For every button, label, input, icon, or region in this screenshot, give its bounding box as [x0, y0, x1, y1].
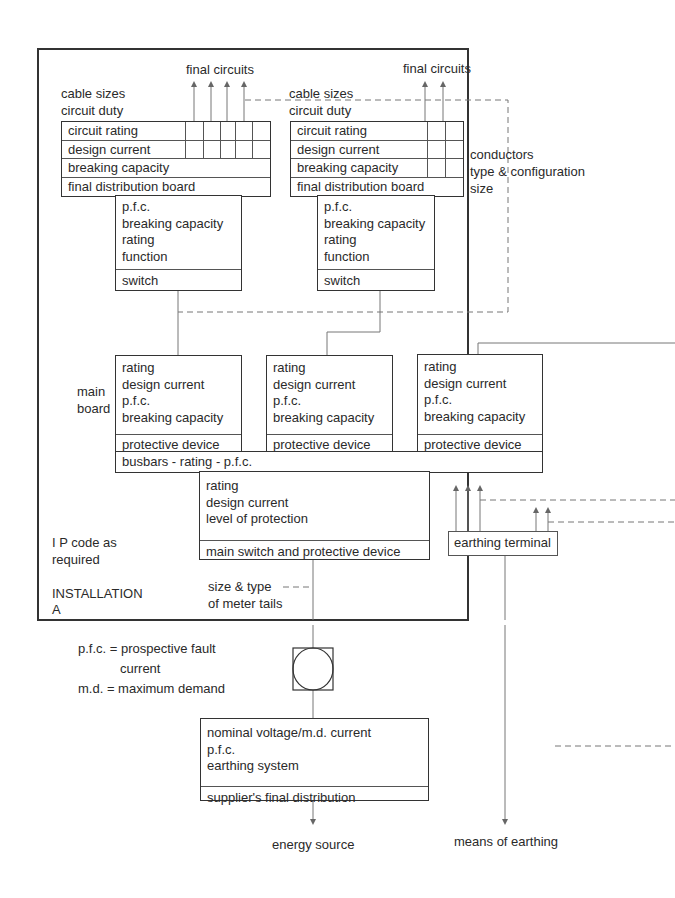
energy-source-label: energy source	[272, 836, 354, 853]
detail-line: design current	[273, 377, 386, 394]
busbars-label: busbars - rating - p.f.c.	[116, 452, 542, 472]
installation-diagram: final circuits final circuits cable size…	[0, 0, 675, 898]
cable-sizes-note-left: cable sizes	[61, 85, 125, 102]
main-board-device-3: rating design current p.f.c. breaking ca…	[417, 354, 543, 453]
circuit-duty-note-left: circuit duty	[61, 102, 123, 119]
means-of-earthing-label: means of earthing	[454, 833, 558, 850]
circuit-grid	[427, 122, 463, 177]
detail-line: level of protection	[206, 511, 423, 528]
detail-line: p.f.c.	[122, 199, 235, 216]
detail-line: breaking capacity	[122, 410, 235, 427]
meter-tails-note-2: of meter tails	[208, 595, 282, 612]
detail-line: rating	[324, 232, 428, 249]
switch-label: switch	[318, 269, 434, 293]
detail-line: nominal voltage/m.d. current	[207, 725, 422, 742]
busbars-bar: busbars - rating - p.f.c.	[115, 451, 543, 473]
device-details: rating design current p.f.c. breaking ca…	[116, 356, 241, 434]
switch-details: p.f.c. breaking capacity rating function	[318, 196, 434, 269]
detail-line: rating	[122, 360, 235, 377]
detail-line: p.f.c.	[273, 393, 386, 410]
detail-line: function	[324, 249, 428, 266]
detail-line: breaking capacity	[324, 216, 428, 233]
ip-code-note: I P code as	[52, 534, 117, 551]
device-details: rating design current p.f.c. breaking ca…	[267, 356, 392, 434]
switch-label: switch	[116, 269, 241, 293]
earthing-terminal-label: earthing terminal	[449, 532, 557, 554]
legend-md: m.d. = maximum demand	[78, 680, 225, 697]
detail-line: design current	[206, 495, 423, 512]
fdb-row: final distribution board	[291, 177, 463, 196]
device-details: rating design current p.f.c. breaking ca…	[418, 355, 542, 434]
installation-label: INSTALLATION A	[52, 586, 143, 618]
detail-line: p.f.c.	[207, 742, 422, 759]
supplier-details: nominal voltage/m.d. current p.f.c. eart…	[201, 719, 428, 786]
final-distribution-board-left: circuit rating design current breaking c…	[61, 121, 271, 197]
meter-tails-note: size & type	[208, 578, 272, 595]
ip-code-note-2: required	[52, 551, 100, 568]
supplier-label: supplier's final distribution	[201, 786, 428, 809]
conductors-type-note: type & configuration	[470, 163, 585, 180]
detail-line: p.f.c.	[122, 393, 235, 410]
circuit-duty-note-right: circuit duty	[289, 102, 351, 119]
main-switch-box: rating design current level of protectio…	[199, 471, 430, 560]
main-board-device-2: rating design current p.f.c. breaking ca…	[266, 355, 393, 453]
final-circuits-label-left: final circuits	[186, 61, 254, 78]
final-distribution-board-right: circuit rating design current breaking c…	[290, 121, 464, 197]
fdb-row: breaking capacity	[62, 158, 270, 177]
detail-line: rating	[122, 232, 235, 249]
main-switch-label: main switch and protective device	[200, 540, 429, 564]
switch-box-left: p.f.c. breaking capacity rating function…	[115, 195, 242, 291]
switch-details: p.f.c. breaking capacity rating function	[116, 196, 241, 269]
detail-line: p.f.c.	[324, 199, 428, 216]
switch-box-right: p.f.c. breaking capacity rating function…	[317, 195, 435, 291]
earthing-terminal-box: earthing terminal	[448, 531, 558, 556]
legend-pfc-cont: current	[120, 660, 160, 677]
conductors-size-note: size	[470, 180, 493, 197]
circuit-grid	[185, 122, 271, 158]
main-board-label: main	[77, 383, 105, 400]
cable-sizes-note-right: cable sizes	[289, 85, 353, 102]
detail-line: design current	[424, 376, 536, 393]
detail-line: function	[122, 249, 235, 266]
detail-line: earthing system	[207, 758, 422, 775]
main-board-device-1: rating design current p.f.c. breaking ca…	[115, 355, 242, 453]
detail-line: p.f.c.	[424, 392, 536, 409]
detail-line: breaking capacity	[273, 410, 386, 427]
main-switch-details: rating design current level of protectio…	[200, 472, 429, 540]
detail-line: breaking capacity	[424, 409, 536, 426]
conductors-note: conductors	[470, 146, 534, 163]
legend-pfc: p.f.c. = prospective fault	[78, 640, 216, 657]
final-circuits-label-right: final circuits	[403, 60, 471, 77]
fdb-row: final distribution board	[62, 177, 270, 196]
detail-line: design current	[122, 377, 235, 394]
detail-line: rating	[273, 360, 386, 377]
detail-line: rating	[206, 478, 423, 495]
detail-line: rating	[424, 359, 536, 376]
supplier-distribution-box: nominal voltage/m.d. current p.f.c. eart…	[200, 718, 429, 801]
main-board-label-2: board	[77, 400, 110, 417]
detail-line: breaking capacity	[122, 216, 235, 233]
